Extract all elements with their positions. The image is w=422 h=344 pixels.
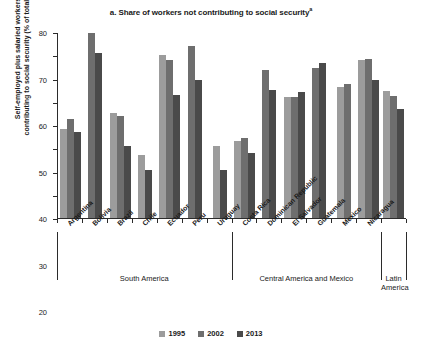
y-axis-tick: 10 bbox=[53, 196, 57, 197]
group-label: Latin America bbox=[381, 274, 406, 292]
y-axis-tick-label: 30 bbox=[39, 261, 47, 270]
bar bbox=[124, 146, 131, 218]
group-bracket-tick bbox=[406, 232, 407, 280]
y-axis-tick: 50 bbox=[53, 103, 57, 104]
legend-item[interactable]: 1995 bbox=[159, 329, 185, 338]
y-axis-tick: 40 bbox=[53, 126, 57, 127]
bar bbox=[188, 46, 195, 218]
bar-group bbox=[157, 33, 182, 218]
bar bbox=[372, 80, 379, 218]
bar bbox=[195, 80, 202, 218]
bar-group bbox=[207, 33, 232, 218]
legend-swatch bbox=[198, 331, 204, 337]
group-label: South America bbox=[57, 274, 232, 283]
legend-label: 1995 bbox=[168, 329, 185, 338]
chart-legend: 199520022013 bbox=[0, 329, 422, 338]
bar bbox=[344, 84, 351, 218]
bar bbox=[241, 138, 248, 218]
bar bbox=[319, 63, 326, 218]
y-axis-title: Self-employed plus salaried workers not … bbox=[10, 0, 34, 152]
bar-group bbox=[232, 33, 257, 218]
legend-label: 2002 bbox=[207, 329, 224, 338]
bar bbox=[95, 53, 102, 218]
group-brackets: South AmericaCentral America and MexicoL… bbox=[57, 232, 406, 294]
bar-group bbox=[307, 33, 332, 218]
y-axis-title-line1: Self-employed plus salaried workers not bbox=[13, 0, 22, 135]
group-bracket-tick bbox=[57, 232, 58, 280]
bar bbox=[358, 60, 365, 218]
legend-label: 2013 bbox=[246, 329, 263, 338]
bar bbox=[159, 55, 166, 218]
legend-swatch bbox=[237, 331, 243, 337]
chart-container: a. Share of workers not contributing to … bbox=[0, 0, 422, 344]
bar bbox=[173, 95, 180, 218]
y-axis-tick-label: 20 bbox=[39, 308, 47, 317]
group-bracket-tick bbox=[381, 232, 382, 280]
bar bbox=[397, 109, 404, 218]
chart-title: a. Share of workers not contributing to … bbox=[0, 6, 422, 17]
bar bbox=[117, 116, 124, 218]
bar-group bbox=[108, 33, 133, 218]
legend-swatch bbox=[159, 331, 165, 337]
bar-group bbox=[257, 33, 282, 218]
bar-group bbox=[182, 33, 207, 218]
bar bbox=[88, 33, 95, 218]
y-axis-tick-label: 80 bbox=[39, 29, 47, 38]
y-axis-tick-label: 50 bbox=[39, 168, 47, 177]
bar-groups bbox=[58, 33, 406, 218]
plot-area: 01020304050607080 bbox=[57, 33, 406, 219]
group-label: Central America and Mexico bbox=[232, 274, 382, 283]
bar-group bbox=[331, 33, 356, 218]
bar bbox=[213, 146, 220, 218]
bar bbox=[365, 59, 372, 218]
y-axis-tick-label: 70 bbox=[39, 75, 47, 84]
chart-title-footnote-marker: a bbox=[309, 6, 312, 12]
bar-group bbox=[83, 33, 108, 218]
bar-group bbox=[58, 33, 83, 218]
bar-group bbox=[381, 33, 406, 218]
x-axis-tick bbox=[406, 219, 407, 223]
bar-group bbox=[356, 33, 381, 218]
legend-item[interactable]: 2002 bbox=[198, 329, 224, 338]
bar-group bbox=[133, 33, 158, 218]
bar bbox=[60, 129, 67, 219]
y-axis-tick-label: 40 bbox=[39, 215, 47, 224]
y-axis-tick: 60 bbox=[53, 80, 57, 81]
legend-item[interactable]: 2013 bbox=[237, 329, 263, 338]
y-axis-tick-label: 60 bbox=[39, 122, 47, 131]
bar bbox=[166, 60, 173, 218]
bar bbox=[138, 155, 145, 218]
bar bbox=[269, 90, 276, 218]
y-axis-title-line2: contributing to social security (% of to… bbox=[22, 0, 31, 135]
chart-title-text: a. Share of workers not contributing to … bbox=[110, 8, 309, 17]
bar bbox=[67, 119, 74, 218]
y-axis-tick: 70 bbox=[53, 56, 57, 57]
group-bracket-tick bbox=[232, 232, 233, 280]
bar bbox=[74, 132, 81, 218]
y-axis-tick: 20 bbox=[53, 173, 57, 174]
bar bbox=[110, 113, 117, 218]
y-axis-tick: 80 bbox=[53, 33, 57, 34]
y-axis-tick: 30 bbox=[53, 149, 57, 150]
